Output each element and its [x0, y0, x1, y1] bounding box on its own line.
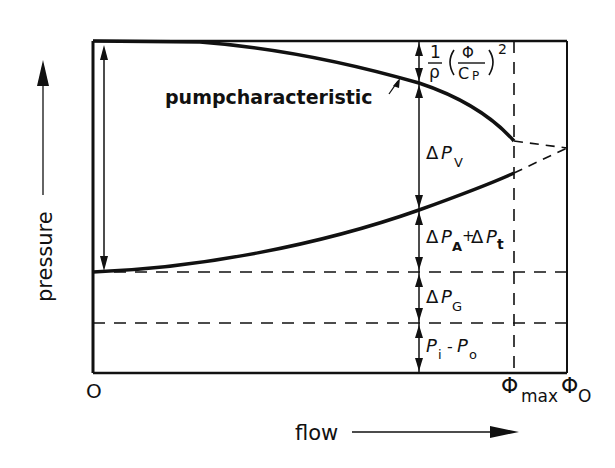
- svg-text:A: A: [452, 239, 462, 254]
- svg-text:i: i: [438, 347, 442, 362]
- pressure-axis-arrow: [37, 60, 49, 195]
- svg-text:1: 1: [430, 42, 441, 62]
- system-curve: [93, 173, 514, 272]
- delta-pg-term: Δ P G: [426, 286, 462, 314]
- svg-text:C: C: [458, 64, 469, 83]
- svg-text:-: -: [447, 337, 453, 356]
- svg-text:Φ: Φ: [501, 373, 518, 398]
- svg-text:P: P: [441, 142, 452, 163]
- svg-text:P: P: [486, 226, 497, 247]
- pump-curve-extension: [514, 141, 567, 148]
- svg-text:2: 2: [498, 41, 507, 57]
- head-loss-term: 1 ρ Φ C P 2: [428, 41, 507, 83]
- svg-text:Φ: Φ: [462, 44, 474, 62]
- svg-text:P: P: [426, 335, 437, 356]
- y-axis-label: pressure: [33, 211, 57, 302]
- svg-text:max: max: [521, 386, 558, 406]
- system-curve-extension: [514, 148, 567, 173]
- phi-max-label: Φ max: [501, 373, 558, 406]
- pump-characteristic-label: pumpcharacteristic: [165, 86, 373, 108]
- zero-flow-head-arrow: [100, 45, 108, 271]
- svg-text:t: t: [497, 236, 504, 252]
- svg-text:P: P: [441, 286, 452, 307]
- svg-text:Δ: Δ: [471, 226, 484, 247]
- svg-text:Δ: Δ: [426, 142, 439, 163]
- x-axis-label: flow: [295, 421, 338, 445]
- pump-diagram: pressure flow O Φ max Φ O pumpcharacteri…: [0, 0, 615, 468]
- svg-text:P: P: [457, 335, 468, 356]
- svg-text:Φ: Φ: [561, 373, 578, 398]
- svg-text:Δ: Δ: [426, 286, 439, 307]
- svg-text:G: G: [452, 299, 462, 314]
- svg-text:o: o: [469, 347, 477, 362]
- phi-zero-label: Φ O: [561, 373, 591, 406]
- svg-text:P: P: [472, 69, 479, 83]
- delta-pv-term: Δ P V: [426, 142, 463, 170]
- delta-pa-pt-term: Δ P A + Δ P t: [426, 226, 504, 254]
- pump-label-pointer: [389, 78, 400, 94]
- flow-axis-arrow: [352, 426, 519, 438]
- svg-text:V: V: [454, 155, 463, 170]
- svg-text:O: O: [578, 386, 591, 406]
- svg-text:ρ: ρ: [429, 62, 440, 82]
- pi-minus-po-term: P i - P o: [426, 335, 477, 362]
- svg-text:Δ: Δ: [426, 226, 439, 247]
- origin-label: O: [86, 379, 102, 403]
- svg-text:P: P: [441, 226, 452, 247]
